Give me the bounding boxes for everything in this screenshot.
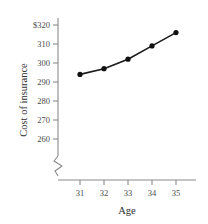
y-tick-label: $320	[33, 20, 50, 30]
x-tick-label: 35	[172, 188, 181, 198]
data-point	[77, 72, 82, 77]
data-point	[125, 57, 130, 62]
data-point	[101, 66, 106, 71]
y-tick-label: 260	[37, 134, 50, 144]
x-tick-label: 33	[124, 188, 133, 198]
y-tick-label: 310	[37, 39, 50, 49]
y-axis-title: Cost of insurance	[18, 63, 29, 137]
y-tick-label: 270	[37, 115, 50, 125]
x-tick-label: 31	[76, 188, 85, 198]
y-tick-label: 300	[37, 58, 50, 68]
data-point	[173, 30, 178, 35]
x-tick-label: 34	[148, 188, 157, 198]
y-tick-label: 290	[37, 77, 50, 87]
line-chart: $320310300290280270260 3132333435 Age Co…	[0, 0, 208, 224]
y-tick-label: 280	[37, 96, 50, 106]
x-axis-title: Age	[118, 205, 136, 216]
data-point	[149, 43, 154, 48]
x-tick-label: 32	[100, 188, 109, 198]
chart-canvas: $320310300290280270260 3132333435 Age Co…	[0, 0, 208, 224]
